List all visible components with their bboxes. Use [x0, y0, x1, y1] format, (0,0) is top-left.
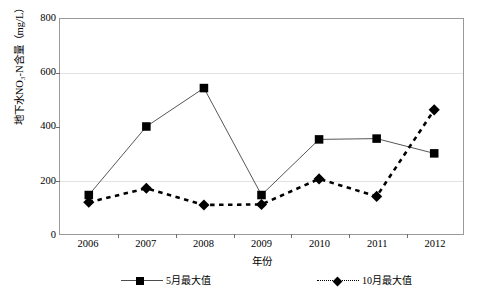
diamond-marker-icon	[141, 183, 152, 194]
legend-entry-may-max[interactable]: 5月最大值	[121, 274, 211, 288]
legend-sample-square-solid	[121, 275, 163, 287]
y-tick-label: 400	[20, 121, 56, 132]
chart-figure: 地下水NO₃-N含量（mg/L） 800 600 400 200 0 2006 …	[0, 0, 478, 306]
diamond-marker-icon	[198, 199, 209, 210]
x-tick-label: 2007	[135, 238, 156, 250]
square-marker-icon	[136, 277, 144, 285]
square-marker-icon	[257, 191, 266, 200]
chart-legend: 5月最大值 10月最大值	[59, 274, 464, 290]
diamond-marker-icon	[314, 173, 325, 184]
x-tick-label: 2009	[251, 238, 272, 250]
square-marker-icon	[315, 135, 324, 144]
square-marker-icon	[430, 149, 439, 158]
x-tick-label: 2008	[193, 238, 214, 250]
y-axis-tick-labels: 800 600 400 200 0	[20, 0, 56, 306]
diamond-marker-icon	[256, 199, 267, 210]
y-tick-label: 200	[20, 176, 56, 187]
series-line	[89, 110, 434, 205]
diamond-marker-icon	[429, 104, 440, 115]
x-axis-title: 年份	[59, 256, 464, 268]
diamond-marker-icon	[333, 276, 343, 286]
square-marker-icon	[372, 134, 381, 143]
x-tick-label: 2012	[425, 238, 446, 250]
y-tick-label: 800	[20, 13, 56, 24]
x-tick-label: 2010	[309, 238, 330, 250]
plot-area	[59, 18, 464, 235]
series-line	[89, 88, 434, 195]
legend-label: 10月最大值	[362, 275, 412, 287]
legend-sample-diamond-dashed	[317, 275, 359, 287]
x-axis-tick-labels: 2006 2007 2008 2009 2010 2011 2012	[59, 238, 464, 254]
legend-label: 5月最大值	[166, 275, 211, 287]
series-plot	[60, 19, 463, 234]
square-marker-icon	[200, 84, 209, 93]
x-tick-label: 2011	[367, 238, 388, 250]
legend-entry-october-max[interactable]: 10月最大值	[317, 274, 412, 288]
x-tick-label: 2006	[77, 238, 98, 250]
y-tick-label: 0	[20, 230, 56, 241]
square-marker-icon	[142, 122, 151, 131]
y-tick-label: 600	[20, 67, 56, 78]
